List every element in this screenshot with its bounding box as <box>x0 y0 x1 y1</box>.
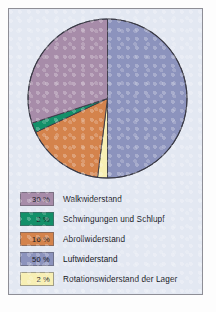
chart-legend: 30 %Walkwiderstand2 %Schwingungen und Sc… <box>11 189 202 289</box>
legend-swatch: 16 % <box>20 232 54 246</box>
legend-row: 2 %Rotationswiderstand der Lager <box>11 269 202 289</box>
legend-swatch: 30 % <box>20 192 54 206</box>
legend-label: Luftwiderstand <box>63 255 118 264</box>
legend-row: 50 %Luftwiderstand <box>11 249 202 269</box>
pie-chart-svg <box>27 18 188 179</box>
legend-row: 30 %Walkwiderstand <box>11 189 202 209</box>
pie-slice <box>108 19 187 178</box>
chart-panel: 30 %Walkwiderstand2 %Schwingungen und Sc… <box>8 8 203 295</box>
legend-row: 2 %Schwingungen und Schlupf <box>11 209 202 229</box>
pie-chart <box>27 18 188 179</box>
legend-swatch: 2 % <box>20 212 54 226</box>
legend-label: Walkwiderstand <box>63 195 122 204</box>
legend-swatch: 50 % <box>20 252 54 266</box>
legend-label: Schwingungen und Schlupf <box>63 215 165 224</box>
legend-row: 16 %Abrollwiderstand <box>11 229 202 249</box>
legend-swatch: 2 % <box>20 272 54 286</box>
legend-label: Abrollwiderstand <box>63 235 125 244</box>
legend-label: Rotationswiderstand der Lager <box>63 275 177 284</box>
chart-figure: 30 %Walkwiderstand2 %Schwingungen und Sc… <box>0 0 216 312</box>
